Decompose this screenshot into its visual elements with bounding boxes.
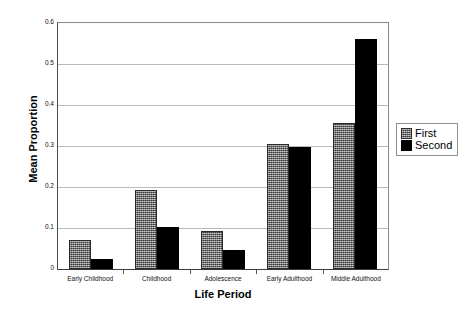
bars-wrap xyxy=(58,23,124,269)
x-axis-category-label: Childhood xyxy=(123,275,189,282)
bar-second[interactable] xyxy=(355,39,377,269)
bars-wrap xyxy=(190,23,256,269)
x-axis-category-label: Middle Adulthood xyxy=(323,275,389,282)
bar-first[interactable] xyxy=(135,190,157,269)
bar-second[interactable] xyxy=(289,147,311,269)
bar-first[interactable] xyxy=(69,240,91,269)
x-axis-tick xyxy=(323,270,324,274)
y-axis-tick-label: 0.3 xyxy=(28,141,54,148)
legend-item-label: First xyxy=(415,128,436,139)
bar-group xyxy=(322,23,388,269)
bar-second[interactable] xyxy=(157,227,179,269)
x-axis-tick xyxy=(123,270,124,274)
x-axis-category-label: Early Childhood xyxy=(57,275,123,282)
bars-wrap xyxy=(256,23,322,269)
bar-second[interactable] xyxy=(91,259,113,269)
bar-group xyxy=(256,23,322,269)
x-axis-category-label: Early Adulthood xyxy=(256,275,322,282)
y-axis-tick-label: 0.6 xyxy=(28,18,54,25)
bar-group xyxy=(190,23,256,269)
x-axis-category-label: Adolescence xyxy=(190,275,256,282)
x-axis-title: Life Period xyxy=(57,288,389,300)
bar-second[interactable] xyxy=(223,250,245,269)
bar-first[interactable] xyxy=(201,231,223,269)
legend-item[interactable]: First xyxy=(401,128,452,139)
bar-group xyxy=(124,23,190,269)
x-axis-tick xyxy=(256,270,257,274)
legend-item[interactable]: Second xyxy=(401,140,452,151)
legend: FirstSecond xyxy=(396,123,458,156)
y-axis-tick-label: 0 xyxy=(28,264,54,271)
y-axis-tick-label: 0.5 xyxy=(28,59,54,66)
bar-first[interactable] xyxy=(333,123,355,269)
x-axis-category-labels: Early ChildhoodChildhoodAdolescenceEarly… xyxy=(57,275,389,282)
y-axis-tick-label: 0.2 xyxy=(28,182,54,189)
y-axis-tick-label: 0.4 xyxy=(28,100,54,107)
legend-item-label: Second xyxy=(415,140,452,151)
legend-swatch-icon xyxy=(401,128,412,139)
bars-wrap xyxy=(322,23,388,269)
bar-first[interactable] xyxy=(267,144,289,269)
y-axis-tick-label: 0.1 xyxy=(28,223,54,230)
bar-groups xyxy=(58,23,388,269)
bar-group xyxy=(58,23,124,269)
bar-chart: Mean Proportion 0.60.50.40.30.20.10 Earl… xyxy=(0,0,469,312)
legend-swatch-icon xyxy=(401,140,412,151)
bars-wrap xyxy=(124,23,190,269)
x-axis-tick xyxy=(190,270,191,274)
y-axis-tick-labels: 0.60.50.40.30.20.10 xyxy=(26,22,54,270)
